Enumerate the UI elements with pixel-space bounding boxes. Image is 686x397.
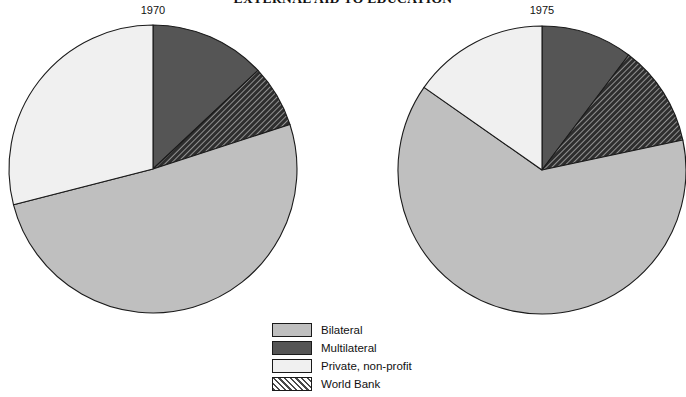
legend-label-bilateral: Bilateral bbox=[321, 323, 363, 337]
chart-root: EXTERNAL AID TO EDUCATION 1970 1975 Bila… bbox=[0, 0, 686, 397]
legend-swatch-world-bank bbox=[272, 377, 312, 391]
legend-swatch-bilateral bbox=[272, 323, 312, 337]
legend-label-private-non-profit: Private, non-profit bbox=[321, 359, 412, 373]
legend-swatch-multilateral bbox=[272, 341, 312, 355]
legend-swatch-private-non-profit bbox=[272, 359, 312, 373]
legend-label-multilateral: Multilateral bbox=[321, 341, 377, 355]
legend-label-world-bank: World Bank bbox=[321, 377, 380, 391]
legend-item-bilateral: Bilateral bbox=[272, 321, 472, 338]
legend: Bilateral Multilateral Private, non-prof… bbox=[272, 321, 472, 393]
legend-item-private-non-profit: Private, non-profit bbox=[272, 357, 472, 374]
legend-item-world-bank: World Bank bbox=[272, 375, 472, 392]
legend-item-multilateral: Multilateral bbox=[272, 339, 472, 356]
